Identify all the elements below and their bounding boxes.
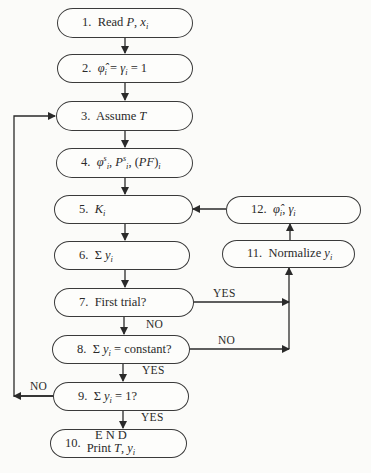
node-12-label: 12. φ̂i, γi — [251, 202, 296, 218]
node-9-label: 9. Σ yi = 1? — [78, 389, 137, 405]
node-5-k-values: 5. Ki — [54, 195, 193, 224]
node-4-saturation-props: 4. φsi, Psi, (PF)i — [56, 148, 193, 178]
node-10-end-print: 10. E N D Print T, yi — [50, 429, 187, 458]
node-2-label: 2. φ̂i = γi = 1 — [82, 61, 147, 77]
node-8-label: 8. Σ yi = constant? — [77, 342, 171, 358]
node-4-label: 4. φsi, Psi, (PF)i — [81, 154, 161, 171]
node-9-sum-equals-one: 9. Σ yi = 1? — [53, 382, 189, 411]
node-10-print-label: Print T, yi — [87, 442, 136, 459]
node-10-text: E N D Print T, yi — [87, 429, 136, 459]
node-11-label: 11. Normalize yi — [247, 246, 332, 262]
node-10-number: 10. — [65, 436, 81, 451]
edge-label-7-yes: YES — [213, 287, 236, 299]
node-6-sum-y: 6. Σ yi — [54, 241, 190, 270]
edge-label-8-no: NO — [218, 334, 235, 346]
node-12-fugacity-activity: 12. φ̂i, γi — [226, 196, 361, 224]
node-10-end-label: E N D — [95, 429, 127, 442]
edge-label-9-yes: YES — [141, 411, 164, 423]
node-11-normalize: 11. Normalize yi — [222, 240, 355, 268]
node-6-label: 6. Σ yi — [79, 248, 113, 264]
node-3-label: 3. Assume T — [81, 109, 146, 124]
node-7-first-trial: 7. First trial? — [54, 288, 194, 317]
node-1-read-input: 1. Read P, xi — [57, 8, 193, 38]
node-5-label: 5. Ki — [79, 202, 105, 218]
edge-label-7-no: NO — [146, 318, 163, 330]
edge-label-8-yes: YES — [142, 364, 165, 376]
edge-label-9-no: NO — [30, 380, 47, 392]
node-3-assume-t: 3. Assume T — [56, 101, 193, 131]
flowchart-canvas: 1. Read P, xi 2. φ̂i = γi = 1 3. Assume … — [0, 0, 371, 473]
node-1-label: 1. Read P, xi — [82, 15, 148, 31]
node-2-initialize: 2. φ̂i = γi = 1 — [57, 54, 193, 83]
node-7-label: 7. First trial? — [79, 295, 146, 310]
node-8-sum-constant: 8. Σ yi = constant? — [52, 335, 190, 364]
